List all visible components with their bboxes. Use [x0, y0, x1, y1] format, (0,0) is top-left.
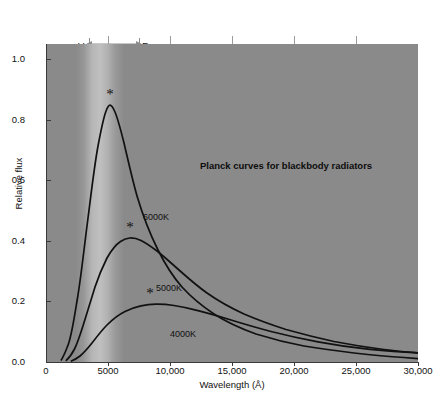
x-tick-label: 15,000	[217, 366, 246, 376]
x-tick-label: 30,000	[403, 366, 432, 376]
planck-curve-figure: V R * *	[0, 0, 447, 405]
y-tick-label: 0.2	[0, 296, 25, 306]
x-tick-mark	[232, 362, 233, 366]
y-tick-mark	[46, 120, 51, 121]
x-axis-label: Wavelength (Å)	[46, 379, 418, 390]
y-tick-label: 0.8	[0, 115, 25, 125]
x-tick-mark	[108, 362, 109, 366]
top-tick-mark	[356, 36, 357, 44]
y-tick-mark	[46, 362, 51, 363]
peak-marker-4000k: *	[146, 285, 154, 301]
y-tick-mark	[46, 180, 51, 181]
y-tick-mark	[46, 301, 51, 302]
y-tick-mark	[46, 241, 51, 242]
top-tick-mark	[108, 36, 109, 44]
peak-marker-6000k: *	[106, 86, 114, 102]
y-tick-label: 0.4	[0, 236, 25, 246]
x-tick-mark	[356, 362, 357, 366]
x-tick-label: 10,000	[155, 366, 184, 376]
curve-label-4000k: 4000K	[170, 329, 196, 339]
y-tick-label: 1.0	[0, 54, 25, 64]
y-tick-label: 0.0	[0, 357, 25, 367]
x-tick-label: 25,000	[341, 366, 370, 376]
x-tick-label: 20,000	[279, 366, 308, 376]
top-tick-mark	[170, 36, 171, 44]
top-tick-mark	[294, 36, 295, 44]
plot-area: * * *	[46, 44, 418, 362]
x-tick-label: 5000	[97, 366, 118, 376]
x-tick-mark	[294, 362, 295, 366]
planck-curves: * * *	[46, 44, 418, 362]
curve-label-5000k: 5000K	[156, 283, 182, 293]
peak-marker-5000k: *	[126, 219, 134, 235]
curve-4000k	[71, 304, 418, 361]
y-tick-label: 0.6	[0, 175, 25, 185]
x-tick-mark	[170, 362, 171, 366]
y-tick-mark	[46, 59, 51, 60]
x-tick-mark	[418, 362, 419, 366]
curve-label-6000k: 6000K	[143, 212, 169, 222]
top-tick-mark	[232, 36, 233, 44]
curve-5000k	[66, 238, 418, 361]
x-tick-label: 0	[43, 366, 48, 376]
chart-title: Planck curves for blackbody radiators	[200, 160, 372, 171]
filter-band-annotation: V R	[0, 18, 447, 44]
